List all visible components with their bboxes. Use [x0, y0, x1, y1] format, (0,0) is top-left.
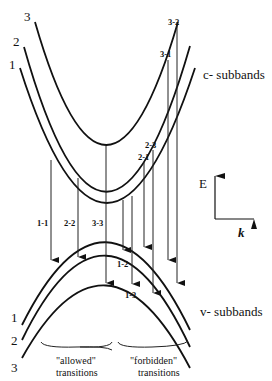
transition-label: 2-2 [64, 218, 75, 228]
transition-label: 1-2 [117, 259, 128, 269]
conduction-band-label: 1 [9, 57, 16, 72]
allowed-brace [41, 342, 112, 350]
energy-axis-label: E [199, 176, 207, 191]
conduction-band-3 [35, 22, 178, 145]
allowed-caption: "allowed" [56, 355, 96, 366]
transition-label: 2-3 [145, 140, 156, 150]
transition-label: 3-3 [92, 218, 103, 228]
valence-band-label: 1 [11, 310, 18, 325]
forbidden-caption: "forbidden" [130, 355, 177, 366]
valence-band-label: 3 [11, 360, 18, 375]
momentum-axis-label: k [238, 225, 245, 240]
transition-label: 1-3 [125, 290, 136, 300]
conduction-band-label: 2 [13, 34, 20, 49]
transition-label: 1-1 [37, 218, 48, 228]
band-transition-diagram: 1-1 2-2 3-3 1-2 1-3 2-1 2-3 3-1 3-2 3 2 … [0, 0, 272, 381]
transition-label: 3-1 [160, 49, 171, 59]
conduction-band-1 [20, 68, 195, 203]
forbidden-caption: transitions [138, 367, 180, 378]
valence-band-label: 2 [11, 333, 18, 348]
allowed-caption: transitions [56, 367, 98, 378]
transition-label: 3-2 [168, 17, 179, 27]
valence-subbands-label: v- subbands [200, 304, 262, 319]
conduction-band-label: 3 [24, 9, 31, 24]
transition-label: 2-1 [138, 152, 149, 162]
conduction-subbands-label: c- subbands [203, 67, 265, 82]
